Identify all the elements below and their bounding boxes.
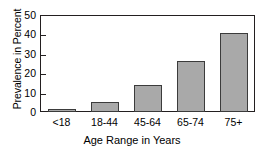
x-tick-label: 75+ — [212, 116, 255, 130]
x-tick-label: 65-74 — [169, 116, 212, 130]
x-tick-label: 18-44 — [83, 116, 126, 130]
y-tick-label: 0 — [14, 107, 36, 117]
y-tick-label: 40 — [14, 29, 36, 39]
plot-area — [40, 15, 255, 112]
y-tick-label: 50 — [14, 10, 36, 20]
y-tick-mark — [41, 74, 46, 75]
y-tick-label: 10 — [14, 88, 36, 98]
x-axis-tick-labels: <18 18-44 45-64 65-74 75+ — [40, 116, 255, 130]
x-axis-title: Age Range in Years — [0, 133, 264, 147]
x-tick-label: <18 — [40, 116, 83, 130]
y-tick-label: 20 — [14, 68, 36, 78]
y-tick-label: 30 — [14, 49, 36, 59]
y-tick-mark — [41, 35, 46, 36]
x-tick-label: 45-64 — [126, 116, 169, 130]
y-tick-mark — [41, 55, 46, 56]
bar-chart: Prevalence in Percent 50 40 30 20 10 0 <… — [0, 0, 264, 159]
y-tick-mark — [41, 94, 46, 95]
